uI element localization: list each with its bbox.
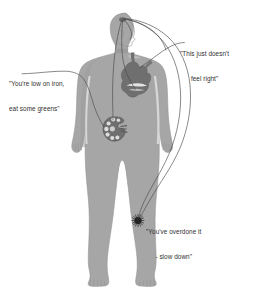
heart-callout-line-2: feel right": [180, 75, 229, 83]
leg-callout-line-1: "You've overdone it: [146, 228, 201, 236]
kidney-lobe-1: [107, 121, 111, 125]
body-signals-diagram: "You're low on iron, eat some greens" "T…: [0, 0, 253, 302]
kidney-callout-line-2: eat some greens": [9, 105, 64, 113]
kidney-lobe-3: [106, 133, 110, 137]
kidney-lobe-4: [110, 136, 114, 140]
heart-callout: "This just doesn't feel right": [180, 33, 229, 100]
kidney-lobe-2: [104, 127, 108, 131]
kidney-lobe-8: [110, 126, 115, 131]
leg-pain-burst: [132, 214, 145, 227]
kidney-lobe-7: [117, 119, 120, 122]
kidney-callout-line-1: "You're low on iron,: [9, 80, 64, 88]
burst-core: [134, 217, 141, 224]
leg-callout: "You've overdone it - slow down": [146, 211, 201, 278]
leg-callout-line-2: - slow down": [146, 253, 201, 261]
kidney-callout: "You're low on iron, eat some greens": [9, 63, 64, 130]
kidney-lobe-5: [115, 135, 119, 139]
heart-callout-line-1: "This just doesn't: [180, 50, 229, 58]
